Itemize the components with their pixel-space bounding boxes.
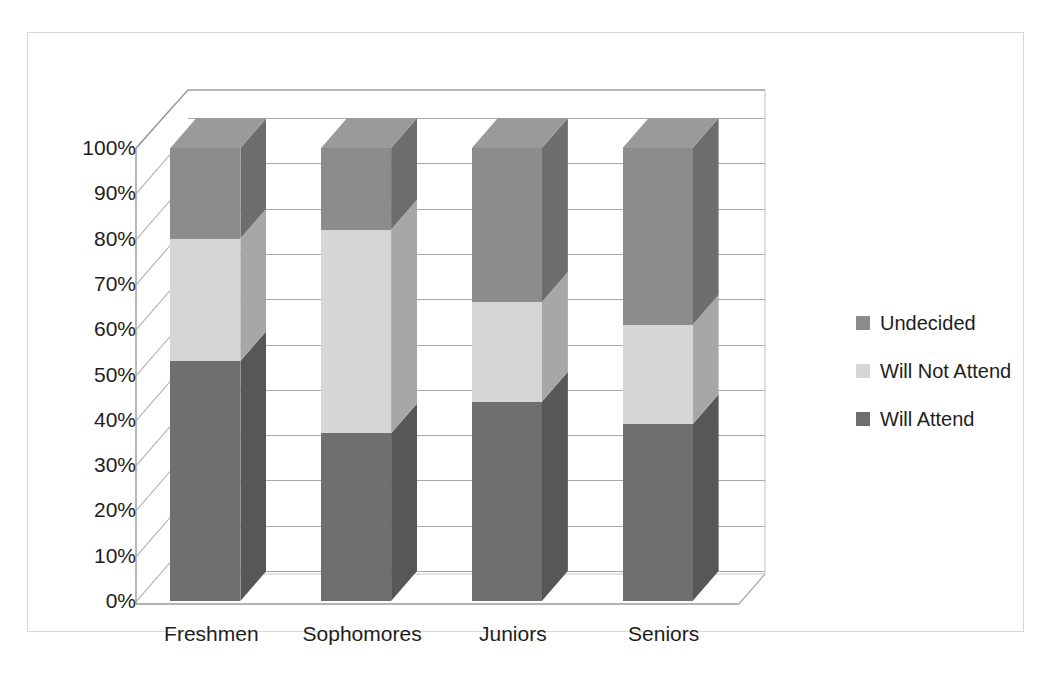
x-tick-label-seniors: Seniors — [574, 621, 754, 647]
bar-segment-side-juniors-will-attend — [542, 372, 568, 601]
legend-label: Will Not Attend — [880, 361, 1011, 381]
bar-segment-freshmen-will-attend[interactable] — [170, 361, 240, 601]
y-tick-label-10: 10% — [62, 545, 136, 566]
bar-segment-freshmen-undecided[interactable] — [170, 148, 240, 239]
bar-segment-sophomores-will-attend[interactable] — [321, 433, 391, 601]
y-axis-labels: 0%10%20%30%40%50%60%70%80%90%100% — [58, 33, 136, 633]
legend-item-undecided[interactable]: Undecided — [856, 313, 1016, 333]
bar-segment-side-seniors-will-attend — [693, 394, 719, 601]
bar-segment-sophomores-will-not-attend[interactable] — [321, 230, 391, 434]
y-tick-label-80: 80% — [62, 228, 136, 249]
y-tick-label-90: 90% — [62, 182, 136, 203]
legend-label: Will Attend — [880, 409, 974, 429]
y-tick-label-60: 60% — [62, 318, 136, 339]
chart-frame: 0%10%20%30%40%50%60%70%80%90%100% Freshm… — [27, 32, 1024, 632]
bar-segment-seniors-undecided[interactable] — [623, 148, 693, 325]
bar-seniors[interactable] — [623, 93, 693, 678]
bar-segment-side-juniors-undecided — [542, 118, 568, 302]
bar-freshmen[interactable] — [170, 93, 240, 678]
y-tick-label-70: 70% — [62, 273, 136, 294]
legend-swatch-icon — [856, 316, 870, 330]
bar-sophomores[interactable] — [321, 93, 391, 678]
y-tick-label-40: 40% — [62, 409, 136, 430]
chart-legend: UndecidedWill Not AttendWill Attend — [856, 313, 1016, 457]
bar-segment-side-freshmen-will-attend — [240, 331, 266, 601]
legend-swatch-icon — [856, 364, 870, 378]
legend-label: Undecided — [880, 313, 976, 333]
bar-segment-sophomores-undecided[interactable] — [321, 148, 391, 230]
legend-swatch-icon — [856, 412, 870, 426]
bar-segment-seniors-will-attend[interactable] — [623, 424, 693, 601]
y-tick-label-0: 0% — [62, 590, 136, 611]
bar-segment-juniors-will-attend[interactable] — [472, 402, 542, 601]
y-tick-label-50: 50% — [62, 364, 136, 385]
bar-segment-juniors-will-not-attend[interactable] — [472, 302, 542, 402]
y-tick-label-30: 30% — [62, 454, 136, 475]
bar-juniors[interactable] — [472, 93, 542, 678]
y-tick-label-20: 20% — [62, 499, 136, 520]
bar-segment-freshmen-will-not-attend[interactable] — [170, 239, 240, 361]
bar-segment-side-sophomores-will-not-attend — [391, 200, 417, 434]
y-tick-label-100: 100% — [62, 137, 136, 158]
plot-area — [136, 93, 796, 608]
bar-segment-juniors-undecided[interactable] — [472, 148, 542, 302]
legend-item-will-attend[interactable]: Will Attend — [856, 409, 1016, 429]
bar-segment-side-seniors-undecided — [693, 118, 719, 325]
x-axis-labels: FreshmenSophomoresJuniorsSeniors — [136, 621, 836, 655]
bar-segment-side-sophomores-will-attend — [391, 403, 417, 601]
legend-item-will-not-attend[interactable]: Will Not Attend — [856, 361, 1016, 381]
bar-segment-seniors-will-not-attend[interactable] — [623, 325, 693, 425]
